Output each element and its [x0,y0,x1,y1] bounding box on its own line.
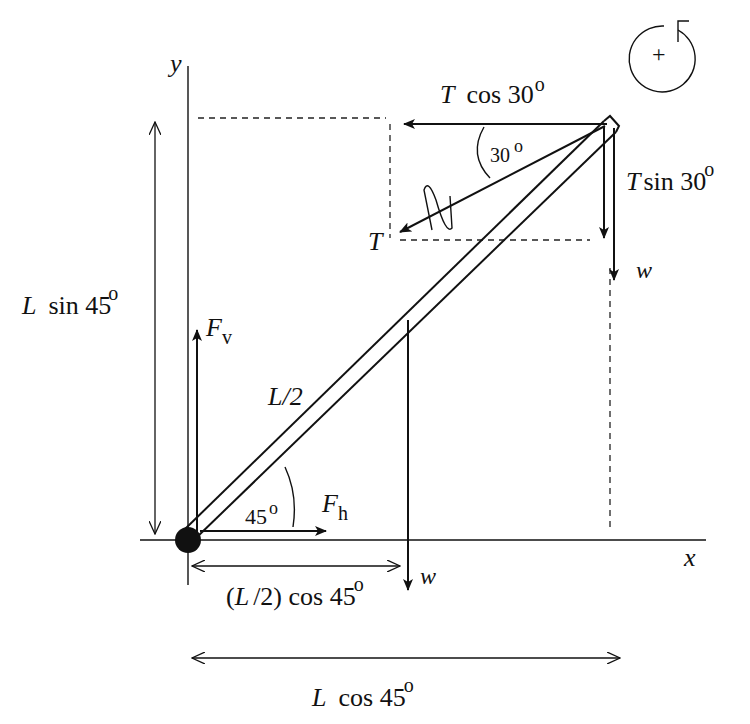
tension-horizontal-label: Tcos 30o [440,73,545,109]
angle-arc-30 [477,127,490,178]
tension-label: T [368,227,384,256]
angle-label-30: 30o [490,136,523,166]
tension-vertical-label: Tsin 30o [626,158,714,196]
weight-vectors: w w [408,128,652,590]
weight-center-label: w [420,563,436,589]
positive-sign: + [652,41,666,67]
weight-end-label: w [636,257,652,283]
x-axis-label: x [683,543,696,572]
vertical-reaction-label: Fv [205,313,232,348]
angle-arc-45 [285,467,294,527]
y-axis-label: y [167,49,182,78]
beam [175,116,619,553]
rotation-sign-convention: + [629,21,695,92]
angle-label-45: 45o [245,498,278,529]
beam-free-body-diagram: y x 45o 30o T Tcos 30o Tsin 30o w w [0,0,750,724]
half-horizontal-dimension-label: (L/2) cos 45o [226,573,364,611]
tension-arrow [400,126,605,232]
coordinate-axes: y x [140,49,706,585]
horizontal-reaction-label: Fh [321,489,348,524]
tension-vectors: T Tcos 30o Tsin 30o [368,73,714,256]
height-dimension-label: Lsin 45o [21,282,118,320]
half-length-label: L/2 [267,382,303,411]
guide-lines [198,118,610,528]
full-horizontal-dimension-label: Lcos 45o [311,674,414,712]
